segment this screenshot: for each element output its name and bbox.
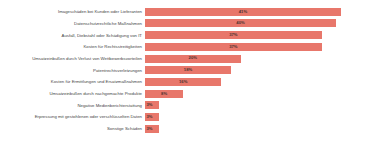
bar-value-label: 40% (236, 21, 244, 25)
bar-value-label: 37% (229, 45, 237, 49)
bar-track: 20% (145, 53, 360, 65)
bar: 16% (145, 78, 221, 86)
bar: 37% (145, 31, 322, 39)
chart-bar-row: Kosten für Ermittlungen und Ersatzmaßnah… (0, 76, 360, 88)
bar-value-label: 18% (184, 68, 192, 72)
bar-track: 40% (145, 18, 360, 30)
bar-track: 18% (145, 64, 360, 76)
horizontal-bar-chart: Imageschäden bei Kunden oder Lieferanten… (0, 0, 370, 145)
bar-value-label: 3% (147, 103, 153, 107)
category-label: Patentrechtsverletzungen (0, 68, 145, 73)
bar-value-label: 20% (189, 56, 197, 60)
bar-value-label: 16% (179, 80, 187, 84)
category-axis-line (145, 4, 146, 139)
chart-bar-row: Datenschutzrechtliche Maßnahmen40% (0, 18, 360, 30)
bar: 3% (145, 101, 159, 109)
category-label: Negative Medienberichterstattung (0, 103, 145, 108)
bar-track: 37% (145, 29, 360, 41)
bar-track: 37% (145, 41, 360, 53)
chart-bar-row: Sonstige Schäden3% (0, 123, 360, 135)
chart-bar-row: Kosten für Rechtsstreitigkeiten37% (0, 41, 360, 53)
category-label: Sonstige Schäden (0, 126, 145, 131)
chart-bar-row: Umsatzeinbußen durch Verlust von Wettbew… (0, 53, 360, 65)
bar: 37% (145, 43, 322, 51)
bar-track: 3% (145, 111, 360, 123)
bar-value-label: 8% (161, 92, 167, 96)
bar: 20% (145, 55, 241, 63)
chart-bar-row: Patentrechtsverletzungen18% (0, 64, 360, 76)
category-label: Umsatzeinbußen durch nachgemachte Produk… (0, 91, 145, 96)
category-label: Ausfall, Diebstahl oder Schädigung von I… (0, 33, 145, 38)
bar-value-label: 3% (147, 115, 153, 119)
bar: 8% (145, 90, 183, 98)
category-label: Kosten für Ermittlungen und Ersatzmaßnah… (0, 79, 145, 84)
bar: 18% (145, 66, 231, 74)
bar-track: 8% (145, 88, 360, 100)
chart-bar-row: Ausfall, Diebstahl oder Schädigung von I… (0, 29, 360, 41)
bar: 3% (145, 113, 159, 121)
bar: 3% (145, 125, 159, 133)
category-label: Erpressung mit gestohlenen oder verschlü… (0, 114, 145, 119)
chart-bar-row: Erpressung mit gestohlenen oder verschlü… (0, 111, 360, 123)
chart-plot-area: Imageschäden bei Kunden oder Lieferanten… (0, 6, 360, 139)
category-label: Umsatzeinbußen durch Verlust von Wettbew… (0, 56, 145, 61)
bar: 41% (145, 8, 341, 16)
bar-value-label: 41% (239, 10, 247, 14)
category-label: Datenschutzrechtliche Maßnahmen (0, 21, 145, 26)
bar-value-label: 3% (147, 127, 153, 131)
chart-bar-row: Imageschäden bei Kunden oder Lieferanten… (0, 6, 360, 18)
bar-value-label: 37% (229, 33, 237, 37)
chart-bar-row: Umsatzeinbußen durch nachgemachte Produk… (0, 88, 360, 100)
bar-track: 16% (145, 76, 360, 88)
category-label: Kosten für Rechtsstreitigkeiten (0, 44, 145, 49)
bar-track: 41% (145, 6, 360, 18)
chart-bar-row: Negative Medienberichterstattung3% (0, 100, 360, 112)
bar: 40% (145, 19, 336, 27)
bar-track: 3% (145, 100, 360, 112)
bar-track: 3% (145, 123, 360, 135)
category-label: Imageschäden bei Kunden oder Lieferanten (0, 9, 145, 14)
